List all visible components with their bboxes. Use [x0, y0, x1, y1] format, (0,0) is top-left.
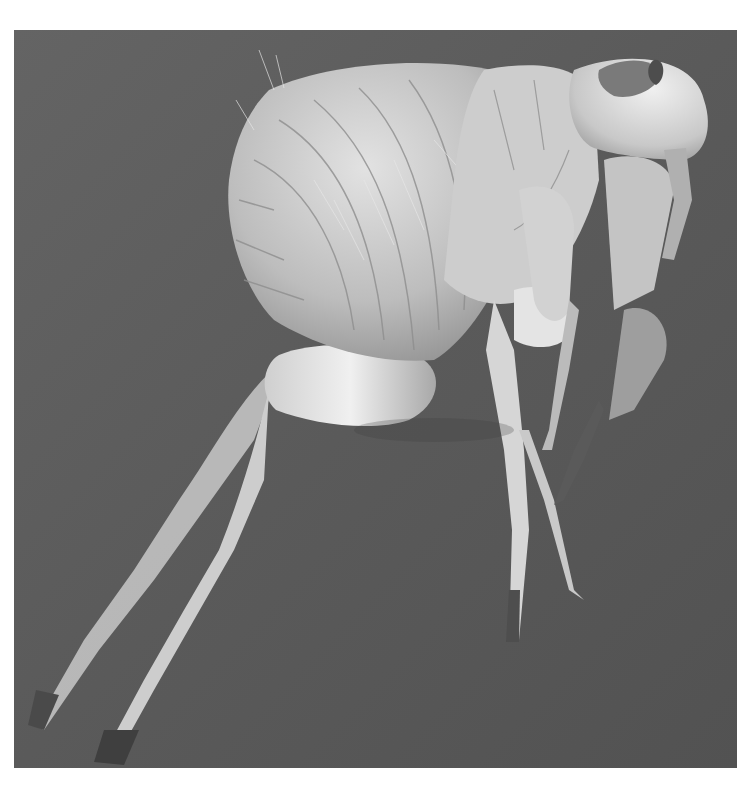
page: [0, 0, 756, 795]
flea-illustration: [14, 30, 737, 768]
shadow: [354, 418, 514, 442]
flea-micrograph: [14, 30, 737, 768]
